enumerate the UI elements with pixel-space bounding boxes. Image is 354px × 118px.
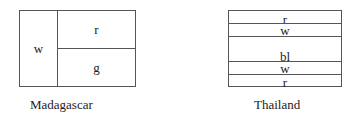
thailand-stripe-4-label: w: [280, 62, 289, 75]
madagascar-top-label: r: [94, 23, 98, 36]
madagascar-hoist-white: w: [20, 11, 57, 86]
thailand-stripe-4-white: w: [229, 62, 341, 74]
thailand-stripe-1-red: r: [229, 11, 341, 23]
thailand-stripe-5-red: r: [229, 75, 341, 86]
thailand-stripe-3-blue: bl: [229, 37, 341, 61]
thailand-stripe-2-white: w: [229, 24, 341, 36]
madagascar-hoist-label: w: [34, 42, 43, 55]
madagascar-top-red: r: [58, 11, 135, 48]
thailand-stripe-2-label: w: [280, 24, 289, 37]
madagascar-caption: Madagascar: [30, 97, 110, 113]
thailand-caption: Thailand: [254, 97, 324, 113]
madagascar-bottom-label: g: [93, 61, 100, 74]
thailand-flag: r w bl w r: [228, 10, 342, 87]
madagascar-flag: w r g: [19, 10, 136, 87]
madagascar-bottom-green: g: [58, 49, 135, 86]
thailand-stripe-5-label: r: [283, 76, 287, 89]
